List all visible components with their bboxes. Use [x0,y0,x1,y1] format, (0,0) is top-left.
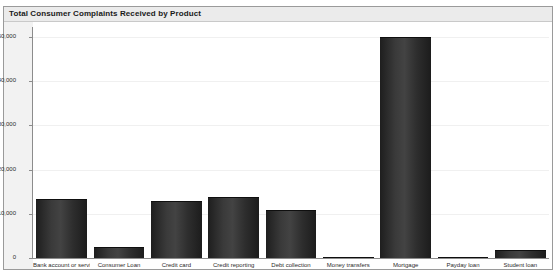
bar-slot [90,22,147,258]
bar-slot [33,22,90,258]
x-tick-label: Payday loan [434,262,491,268]
bar[interactable] [36,199,86,258]
bar-slot [434,22,491,258]
x-axis-line [32,258,549,259]
y-tick-label: 50,000 [0,33,16,39]
bar[interactable] [208,197,258,258]
chart-title: Total Consumer Complaints Received by Pr… [9,9,201,18]
bar[interactable] [266,210,316,258]
x-tick-label: Debt collection [262,262,319,268]
y-tick-label: 30,000 [0,121,16,127]
y-tick-label: 40,000 [0,77,16,83]
y-tick-mark [29,258,33,259]
plot-wrapper: 010,00020,00030,00040,00050,000 Bank acc… [4,22,552,269]
x-tick-label: Credit card [148,262,205,268]
bar[interactable] [380,37,430,258]
x-tick-label: Student loan [492,262,549,268]
x-tick-label: Consumer Loan [90,262,147,268]
x-tick-label: Mortgage [377,262,434,268]
bar-slot [377,22,434,258]
bar-slot [205,22,262,258]
x-axis-labels: Bank account or serviceConsumer LoanCred… [33,260,549,272]
bar[interactable] [323,257,373,258]
bar-slot [492,22,549,258]
bar[interactable] [495,250,545,258]
bar-slot [262,22,319,258]
x-tick-label: Credit reporting [205,262,262,268]
chart-title-bar: Total Consumer Complaints Received by Pr… [4,7,552,22]
x-tick-label: Bank account or service [33,262,90,268]
y-axis-band [4,22,33,269]
y-tick-label: 20,000 [0,166,16,172]
bar[interactable] [438,257,488,258]
x-tick-label: Money transfers [320,262,377,268]
y-tick-label: 10,000 [0,210,16,216]
bar-slot [148,22,205,258]
plot-area [33,22,549,258]
bar[interactable] [94,247,144,258]
y-tick-label: 0 [0,254,16,260]
bar[interactable] [151,201,201,258]
bar-slot [320,22,377,258]
chart-panel: Total Consumer Complaints Received by Pr… [3,6,553,270]
